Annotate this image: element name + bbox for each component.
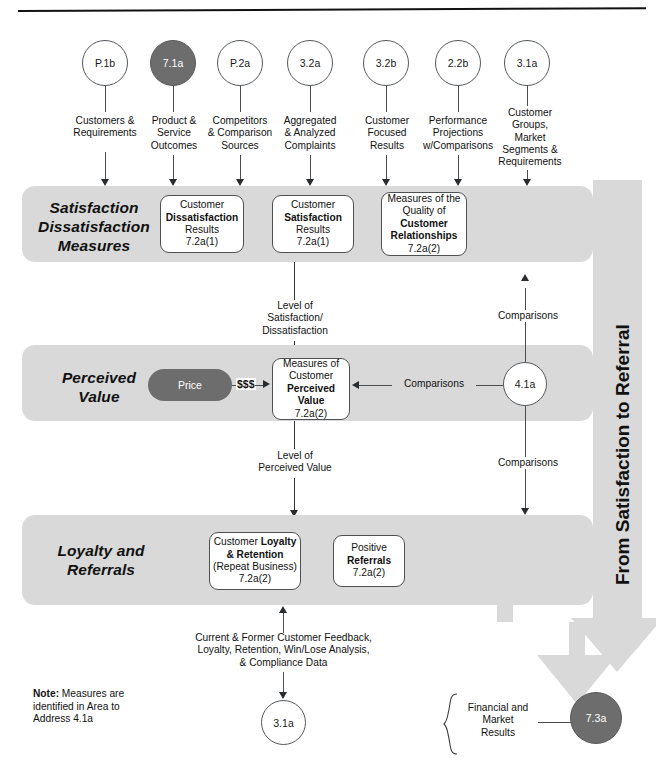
- arrowhead-feedback-up: [279, 606, 287, 613]
- box-quality-customer-relationships[interactable]: Measures of the Quality of Customer Rela…: [381, 192, 467, 256]
- arrowhead-41a-up: [521, 274, 529, 281]
- box-line: Relationships: [391, 230, 458, 241]
- arrowhead-32b: [382, 179, 390, 186]
- box-line: Customer Loyalty: [214, 536, 297, 547]
- banner-vertical-title: From Satisfaction to Referral: [612, 324, 634, 585]
- connector-line-71a-b: [173, 155, 174, 180]
- box-line: 7.2a(1): [297, 236, 329, 247]
- node-circle-41a[interactable]: 4.1a: [503, 362, 547, 406]
- arrowhead-32a: [306, 179, 314, 186]
- connector-line-71a: [173, 86, 174, 112]
- connector-line-p1b-b: [105, 152, 106, 180]
- box-line: Dissatisfaction: [166, 212, 238, 223]
- connector-line-p2a: [240, 86, 241, 112]
- node-circle-32b[interactable]: 3.2b: [363, 40, 409, 86]
- arrowhead-feedback-down: [279, 692, 287, 699]
- box-line: Perceived: [287, 383, 335, 394]
- node-circle-22b[interactable]: 2.2b: [435, 40, 481, 86]
- node-circle-31a-top[interactable]: 3.1a: [504, 40, 550, 86]
- node-circle-p1b[interactable]: P.1b: [82, 40, 128, 86]
- box-customer-satisfaction-results[interactable]: Customer Satisfaction Results 7.2a(1): [272, 195, 354, 253]
- node-caption-31a-top: Customer Groups, Market Segments & Requi…: [487, 107, 573, 168]
- box-line: Customer: [400, 218, 448, 229]
- pill-price[interactable]: Price: [148, 369, 232, 401]
- box-line: & Retention: [226, 549, 283, 560]
- label-comparisons-bottom: Comparisons: [486, 457, 570, 469]
- box-line: 7.2a(2): [353, 567, 385, 578]
- box-line: Customer: [289, 370, 333, 381]
- label-comparisons-mid: Comparisons: [392, 378, 476, 390]
- diagram-canvas: From Satisfaction to Referral P.1b Custo…: [0, 0, 656, 772]
- box-customer-loyalty-retention[interactable]: Customer Loyalty & Retention (Repeat Bus…: [209, 532, 301, 590]
- node-circle-32a[interactable]: 3.2a: [287, 40, 333, 86]
- connector-line-22b: [458, 86, 459, 112]
- arrowhead-41a-down: [521, 508, 529, 515]
- band-label-loyalty: Loyalty and Referrals: [38, 541, 164, 579]
- node-circle-73a[interactable]: 7.3a: [570, 692, 622, 744]
- box-line: Referrals: [347, 555, 391, 566]
- box-customer-dissatisfaction-results[interactable]: Customer Dissatisfaction Results 7.2a(1): [160, 195, 244, 253]
- connector-41a-up: [525, 288, 526, 362]
- box-line: Customer: [180, 199, 224, 210]
- label-price-dollars: $$$: [236, 378, 256, 390]
- box-measures-customer-perceived-value[interactable]: Measures of Customer Perceived Value 7.2…: [272, 358, 350, 420]
- box-line: 7.2a(2): [295, 408, 327, 419]
- box-line: Measures of the: [387, 193, 460, 204]
- arrowhead-p1b: [101, 179, 109, 186]
- connector-line-32b: [386, 86, 387, 112]
- node-circle-71a[interactable]: 7.1a: [150, 40, 196, 86]
- box-line: 7.2a(1): [186, 236, 218, 247]
- label-level-of-satisfaction: Level of Satisfaction/ Dissatisfaction: [248, 300, 342, 337]
- connector-sat-to-pv-top: [294, 262, 295, 300]
- box-line: Customer: [291, 199, 335, 210]
- label-comparisons-top: Comparisons: [486, 310, 570, 322]
- arrowhead-comparisons-to-pv: [352, 381, 359, 389]
- top-divider-rule: [18, 7, 646, 12]
- note-text: Note: Measures are identified in Area to…: [33, 688, 183, 726]
- arrowhead-price-to-pv: [263, 380, 270, 388]
- box-positive-referrals[interactable]: Positive Referrals 7.2a(2): [333, 535, 405, 587]
- box-line: Value: [298, 395, 325, 406]
- arrowhead-71a: [169, 179, 177, 186]
- arrowhead-31a: [523, 179, 531, 186]
- box-line-bold: Loyalty: [261, 536, 297, 547]
- box-line: Measures of: [283, 358, 339, 369]
- connector-line-22b-b: [458, 155, 459, 180]
- box-line: Satisfaction: [284, 212, 342, 223]
- box-line: Results: [296, 224, 330, 235]
- box-line: 7.2a(2): [408, 243, 440, 254]
- label-financial-market-results: Financial and Market Results: [455, 702, 541, 739]
- connector-pv-to-loyalty-top: [294, 421, 295, 449]
- box-line: Quality of: [402, 205, 445, 216]
- connector-line-31a: [527, 86, 528, 106]
- connector-pv-to-loyalty-bottom: [294, 478, 295, 512]
- node-circle-p2a[interactable]: P.2a: [217, 40, 263, 86]
- connector-line-32b-b: [386, 155, 387, 180]
- arrowhead-p2a: [236, 179, 244, 186]
- box-line: Results: [185, 224, 219, 235]
- band-label-perceived-value: Perceived Value: [40, 368, 158, 406]
- box-line: (Repeat Business): [213, 561, 297, 572]
- band-label-satisfaction: Satisfaction Dissatisfaction Measures: [34, 198, 154, 255]
- connector-feedback-down: [283, 672, 284, 694]
- connector-line-p2a-b: [240, 155, 241, 180]
- label-level-of-perceived-value: Level of Perceived Value: [248, 450, 342, 475]
- note-bold-prefix: Note:: [33, 688, 59, 699]
- connector-feedback-up: [283, 613, 284, 633]
- node-circle-31a-bottom[interactable]: 3.1a: [261, 700, 306, 745]
- box-line: 7.2a(2): [239, 573, 271, 584]
- connector-line-p1b: [105, 86, 106, 112]
- arrowhead-22b: [454, 179, 462, 186]
- connector-line-32a: [310, 86, 311, 112]
- connector-line-32a-b: [310, 155, 311, 180]
- box-line: Positive: [351, 542, 387, 553]
- label-feedback: Current & Former Customer Feedback, Loya…: [176, 632, 391, 669]
